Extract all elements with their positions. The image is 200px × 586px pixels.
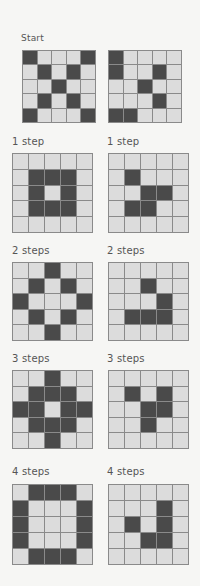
- cell-dead: [141, 154, 156, 169]
- cell-alive: [23, 109, 37, 122]
- cell-dead: [109, 170, 124, 185]
- cell-alive: [29, 402, 44, 417]
- cell-dead: [13, 310, 28, 325]
- cell-alive: [109, 109, 123, 122]
- cell-dead: [138, 109, 152, 122]
- cell-dead: [52, 65, 66, 78]
- cell-alive: [81, 51, 95, 64]
- cell-dead: [29, 325, 44, 340]
- cell-alive: [61, 418, 76, 433]
- cell-dead: [109, 418, 124, 433]
- cell-dead: [173, 485, 188, 500]
- cell-dead: [109, 80, 123, 93]
- cell-dead: [157, 279, 172, 294]
- cell-dead: [109, 94, 123, 107]
- cell-dead: [77, 371, 92, 386]
- cell-alive: [141, 201, 156, 216]
- cell-dead: [61, 217, 76, 232]
- cell-alive: [141, 279, 156, 294]
- cell-dead: [13, 371, 28, 386]
- cell-dead: [173, 433, 188, 448]
- cell-dead: [45, 279, 60, 294]
- cell-dead: [29, 517, 44, 532]
- cell-dead: [61, 517, 76, 532]
- cell-dead: [173, 294, 188, 309]
- cell-alive: [157, 294, 172, 309]
- cell-dead: [45, 186, 60, 201]
- grid-step3-left: [12, 370, 93, 449]
- cell-dead: [157, 217, 172, 232]
- cell-alive: [77, 501, 92, 516]
- cell-alive: [38, 94, 52, 107]
- stage-label-3-right: 3 steps: [107, 353, 145, 364]
- cell-dead: [23, 80, 37, 93]
- cell-alive: [29, 549, 44, 564]
- cell-dead: [61, 294, 76, 309]
- stage-label-3-left: 3 steps: [12, 353, 50, 364]
- cell-alive: [81, 109, 95, 122]
- cell-alive: [141, 186, 156, 201]
- cell-dead: [38, 51, 52, 64]
- stage-label-2-right: 2 steps: [107, 245, 145, 256]
- cell-dead: [125, 186, 140, 201]
- cell-dead: [141, 549, 156, 564]
- grid-step4-left: [12, 484, 93, 565]
- cell-alive: [141, 533, 156, 548]
- cell-dead: [141, 501, 156, 516]
- grid-step1-left: [12, 153, 93, 233]
- cell-dead: [81, 65, 95, 78]
- grid-step2-left: [12, 262, 93, 341]
- cell-alive: [45, 325, 60, 340]
- cell-alive: [141, 402, 156, 417]
- cell-dead: [29, 154, 44, 169]
- cell-alive: [67, 94, 81, 107]
- cell-dead: [77, 263, 92, 278]
- cell-dead: [125, 371, 140, 386]
- cell-dead: [52, 51, 66, 64]
- cell-dead: [29, 501, 44, 516]
- cell-dead: [13, 387, 28, 402]
- cell-alive: [67, 65, 81, 78]
- cell-dead: [157, 201, 172, 216]
- cell-dead: [125, 279, 140, 294]
- cell-alive: [23, 51, 37, 64]
- cell-dead: [109, 186, 124, 201]
- cell-dead: [173, 310, 188, 325]
- cell-dead: [13, 154, 28, 169]
- cell-dead: [61, 501, 76, 516]
- cell-dead: [173, 325, 188, 340]
- cell-alive: [29, 485, 44, 500]
- cell-alive: [125, 201, 140, 216]
- cell-dead: [141, 294, 156, 309]
- cell-dead: [77, 387, 92, 402]
- cell-alive: [61, 201, 76, 216]
- cell-dead: [124, 80, 138, 93]
- cell-dead: [167, 109, 181, 122]
- grid-step2-right: [108, 262, 189, 341]
- cell-alive: [45, 371, 60, 386]
- cell-dead: [38, 80, 52, 93]
- cell-dead: [141, 371, 156, 386]
- cell-dead: [125, 402, 140, 417]
- cell-dead: [13, 170, 28, 185]
- cell-alive: [125, 170, 140, 185]
- cell-alive: [157, 387, 172, 402]
- cell-alive: [13, 501, 28, 516]
- cell-dead: [125, 325, 140, 340]
- grid-step4-right: [108, 484, 189, 565]
- cell-alive: [29, 170, 44, 185]
- cell-alive: [157, 501, 172, 516]
- cell-dead: [141, 170, 156, 185]
- cell-dead: [173, 263, 188, 278]
- cell-dead: [173, 279, 188, 294]
- cell-dead: [157, 371, 172, 386]
- cell-dead: [77, 549, 92, 564]
- cell-dead: [77, 170, 92, 185]
- cell-dead: [153, 109, 167, 122]
- cell-alive: [45, 549, 60, 564]
- cell-dead: [173, 186, 188, 201]
- cell-dead: [109, 154, 124, 169]
- cell-alive: [61, 310, 76, 325]
- cell-alive: [125, 517, 140, 532]
- cell-dead: [61, 533, 76, 548]
